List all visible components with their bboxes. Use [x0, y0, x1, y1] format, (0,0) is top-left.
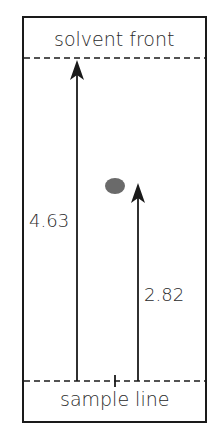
sample-line-label: sample line [60, 388, 169, 410]
spot-distance-value: 2.82 [144, 284, 184, 305]
solvent-distance-value: 4.63 [29, 210, 69, 231]
sample-spot [105, 178, 125, 194]
solvent-front-label: solvent front [54, 28, 174, 50]
